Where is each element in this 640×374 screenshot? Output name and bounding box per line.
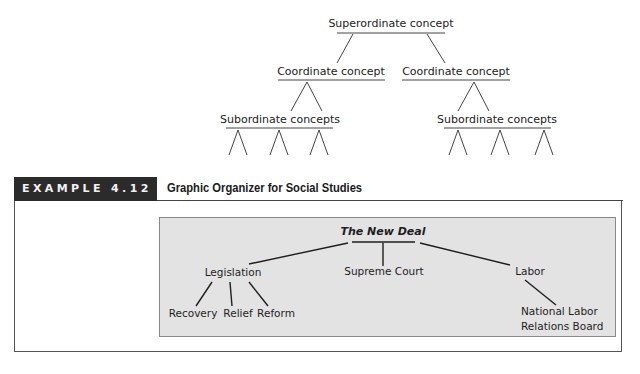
leaf-relief: Relief [223,307,252,319]
organizer-root-node: The New Deal [340,225,425,238]
leaf-recovery: Recovery [169,307,218,319]
leaf-national-labor-relations-board: National Labor Relations Board [521,304,603,334]
leaf-nlrb-line-2: Relations Board [521,319,603,334]
leaf-reform: Reform [257,307,295,319]
leaf-nlrb-line-1: National Labor [521,304,603,319]
branch-labor: Labor [515,265,545,277]
branch-supreme-court: Supreme Court [344,265,423,277]
branch-legislation: Legislation [205,266,262,278]
